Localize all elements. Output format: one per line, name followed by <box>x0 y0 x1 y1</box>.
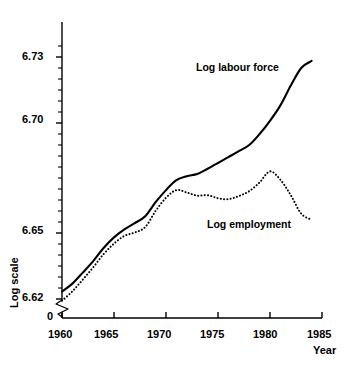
chart-figure: 6.73 6.70 6.65 6.62 0 1960 1965 1970 197… <box>0 0 355 365</box>
y-axis-title: Log scale <box>8 257 20 308</box>
series-label-labour-force: Log labour force <box>196 61 279 73</box>
x-tick-label-1960: 1960 <box>48 328 72 340</box>
x-axis-title: Year <box>313 344 336 356</box>
y-origin-label: 0 <box>47 310 53 322</box>
series-label-employment: Log employment <box>207 218 291 230</box>
y-tick-label-6-70: 6.70 <box>22 113 43 125</box>
x-tick-label-1965: 1965 <box>94 328 118 340</box>
x-tick-label-1970: 1970 <box>147 328 171 340</box>
chart-canvas <box>0 0 355 365</box>
chart-axes <box>62 22 322 318</box>
series-path-employment <box>62 171 312 300</box>
chart-series-paths <box>62 61 312 301</box>
y-tick-label-6-62: 6.62 <box>22 291 43 303</box>
x-tick-label-1975: 1975 <box>200 328 224 340</box>
x-tick-label-1985: 1985 <box>307 328 331 340</box>
x-tick-label-1980: 1980 <box>253 328 277 340</box>
y-tick-label-6-73: 6.73 <box>22 50 43 62</box>
series-path-labour-force <box>62 61 312 292</box>
y-tick-label-6-65: 6.65 <box>22 224 43 236</box>
